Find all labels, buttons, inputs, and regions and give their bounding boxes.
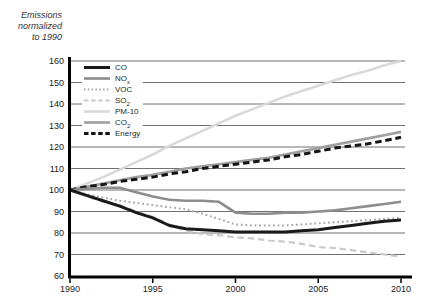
x-tick-label-1995: 1995 [143, 284, 163, 294]
y-tick-label-60: 60 [54, 271, 64, 281]
chart-figure: Emissions normalized to 1990 19901995200… [0, 0, 425, 307]
legend-line-energy [84, 129, 110, 138]
legend-label-co: CO [115, 63, 127, 72]
series-line-energy [70, 137, 401, 190]
legend-item-co: CO [82, 62, 143, 72]
series-line-co2 [70, 132, 401, 190]
legend-line-so2 [84, 96, 110, 105]
y-tick-label-140: 140 [49, 99, 64, 109]
legend-item-nox: NOx [82, 73, 143, 83]
y-tick-label-120: 120 [49, 142, 64, 152]
legend: CONOxVOCSO2PM-10CO2Energy [82, 62, 143, 138]
y-tick-label-70: 70 [54, 250, 64, 260]
y-tick-label-100: 100 [49, 185, 64, 195]
legend-item-pm10: PM-10 [82, 106, 143, 116]
y-tick-label-160: 160 [49, 56, 64, 66]
legend-item-voc: VOC [82, 84, 143, 94]
y-tick-label-110: 110 [50, 164, 64, 174]
legend-line-nox [84, 74, 110, 83]
legend-label-energy: Energy [115, 129, 140, 138]
legend-line-voc [84, 85, 110, 94]
x-tick-label-1990: 1990 [60, 284, 80, 294]
legend-label-voc: VOC [115, 85, 132, 94]
legend-label-so2: SO2 [115, 96, 130, 105]
legend-line-co [84, 63, 110, 72]
legend-label-co2: CO2 [115, 118, 130, 127]
legend-line-pm10 [84, 107, 110, 116]
y-tick-label-90: 90 [54, 207, 64, 217]
y-tick-label-80: 80 [54, 228, 64, 238]
y-tick-label-150: 150 [49, 78, 64, 88]
x-tick-label-2000: 2000 [225, 284, 245, 294]
legend-item-energy: Energy [82, 128, 143, 138]
y-tick-label-130: 130 [49, 121, 64, 131]
legend-item-so2: SO2 [82, 95, 143, 105]
x-tick-label-2005: 2005 [308, 284, 328, 294]
x-tick-label-2010: 2010 [391, 284, 411, 294]
legend-item-co2: CO2 [82, 117, 143, 127]
series-line-co [70, 190, 401, 232]
plot-area: 1990199520002005201060708090100110120130… [0, 0, 425, 307]
legend-label-nox: NOx [115, 74, 130, 83]
legend-label-pm10: PM-10 [115, 107, 139, 116]
legend-line-co2 [84, 118, 110, 127]
